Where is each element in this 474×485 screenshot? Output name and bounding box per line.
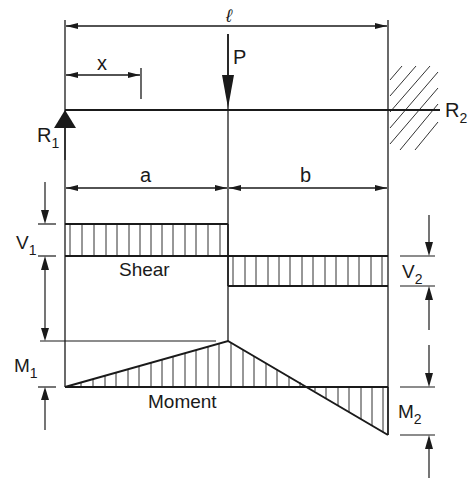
m2-label: M2 [398, 401, 422, 427]
pin-support-icon [54, 110, 76, 128]
span-label: ℓ [225, 6, 233, 26]
load-arrow-icon [222, 75, 234, 108]
beam-diagram: ℓ x P R2 R1 a b [0, 0, 474, 485]
x-dimension: x [66, 52, 140, 75]
m1-label: M1 [14, 355, 38, 381]
load-label: P [233, 46, 246, 68]
m2-arrow-up-icon [425, 435, 433, 449]
r2-label: R2 [445, 99, 467, 126]
moment-diagram [40, 341, 388, 435]
v1-dimension [38, 182, 56, 330]
r1-label: R1 [37, 124, 59, 151]
b-label: b [300, 164, 311, 186]
v1-label: V1 [16, 232, 37, 258]
a-label: a [140, 164, 152, 186]
v1-arrow-down-icon [41, 210, 49, 224]
m2-arrow-down-icon [425, 373, 433, 387]
ab-dimensions: a b [66, 164, 387, 188]
moment-label: Moment [148, 391, 217, 412]
span-dimension: ℓ [66, 6, 387, 26]
v2-arrow-down-icon [425, 242, 433, 256]
shear-label: Shear [119, 259, 170, 280]
v1-arrow-up-icon [41, 256, 49, 270]
x-label: x [97, 52, 107, 74]
shear-diagram [65, 224, 388, 286]
load-arrow: P [222, 34, 246, 108]
m1-arrow-up-icon [41, 387, 49, 400]
v2-label: V2 [402, 261, 423, 287]
fixed-wall [390, 66, 438, 150]
v2-arrow-up-icon [425, 286, 433, 300]
m1-arrow-down-icon [41, 328, 49, 341]
m1-dimension [38, 387, 56, 430]
